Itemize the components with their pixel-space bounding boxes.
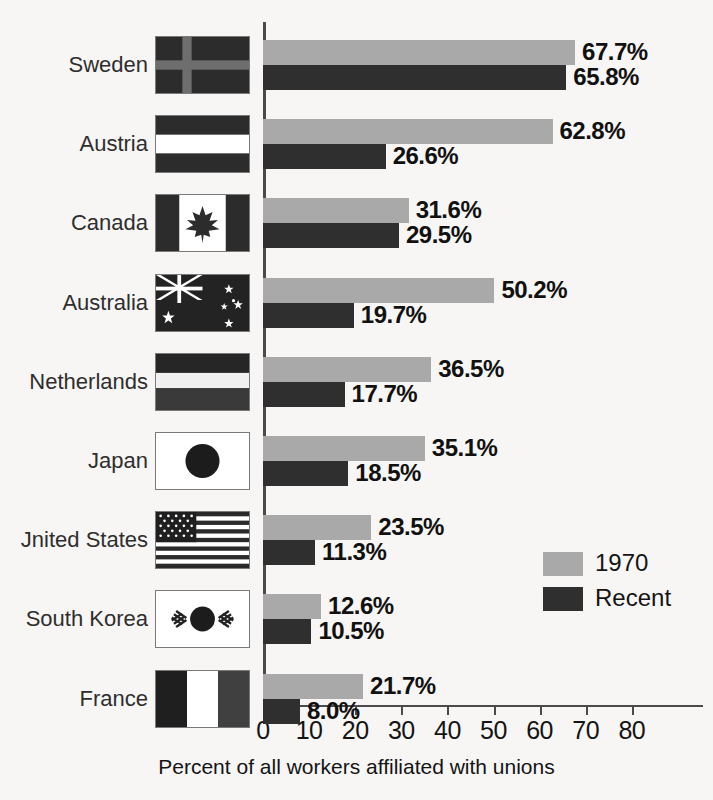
country-label-netherlands: Netherlands — [29, 369, 148, 395]
x-axis-title: Percent of all workers affiliated with u… — [0, 755, 713, 779]
bar-canada-1970 — [263, 198, 409, 223]
bar-france-1970 — [263, 674, 363, 699]
country-label-france: France — [80, 686, 148, 712]
bar-australia-recent — [263, 303, 354, 328]
bar-value-label: 12.6% — [328, 592, 394, 620]
country-label-japan: Japan — [88, 448, 148, 474]
country-label-sweden: Sweden — [68, 52, 148, 78]
bar-canada-recent — [263, 223, 399, 248]
country-label-wrap: Austria — [0, 119, 150, 169]
bar-austria-1970 — [263, 119, 553, 144]
country-label-australia: Australia — [62, 290, 148, 316]
chart-row: Canada 31.6%29.5% — [0, 198, 713, 248]
bar-value-label: 8.0% — [307, 697, 360, 725]
bar-japan-1970 — [263, 436, 425, 461]
legend-label-recent: Recent — [595, 584, 671, 612]
legend-swatch-recent — [543, 587, 583, 611]
bar-value-label: 62.8% — [560, 117, 626, 145]
bar-austria-recent — [263, 144, 386, 169]
chart-row: Sweden 67.7%65.8% — [0, 40, 713, 90]
country-label-wrap: South Korea — [0, 594, 150, 644]
bar-value-label: 21.7% — [370, 672, 436, 700]
country-label-wrap: France — [0, 674, 150, 724]
bar-sweden-1970 — [263, 40, 575, 65]
legend-label-1970: 1970 — [595, 549, 648, 577]
country-label-austria: Austria — [80, 131, 148, 157]
chart-row: Netherlands 36.5%17.7% — [0, 357, 713, 407]
country-label-wrap: Canada — [0, 198, 150, 248]
bar-value-label: 31.6% — [416, 196, 482, 224]
bar-value-label: 26.6% — [393, 142, 459, 170]
bar-netherlands-1970 — [263, 357, 431, 382]
bar-value-label: 17.7% — [352, 380, 418, 408]
legend-swatch-1970 — [543, 552, 583, 576]
bar-australia-1970 — [263, 278, 494, 303]
bar-value-label: 35.1% — [432, 434, 498, 462]
australia-flag — [155, 274, 250, 332]
canada-flag — [155, 194, 250, 252]
country-label-wrap: Netherlands — [0, 357, 150, 407]
bar-france-recent — [263, 699, 300, 724]
austria-flag — [155, 115, 250, 173]
bar-south-korea-1970 — [263, 594, 321, 619]
france-flag — [155, 670, 250, 728]
chart-row: Japan 35.1%18.5% — [0, 436, 713, 486]
south-korea-flag — [155, 590, 250, 648]
bar-united-states-recent — [263, 540, 315, 565]
bar-sweden-recent — [263, 65, 566, 90]
bar-united-states-1970 — [263, 515, 371, 540]
chart-row: Australia 50.2%19.7% — [0, 278, 713, 328]
country-label-united-states: Jnited States — [21, 527, 148, 553]
sweden-flag — [155, 36, 250, 94]
country-label-wrap: Jnited States — [0, 515, 150, 565]
netherlands-flag — [155, 353, 250, 411]
country-label-wrap: Sweden — [0, 40, 150, 90]
bar-value-label: 18.5% — [355, 459, 421, 487]
bar-value-label: 36.5% — [438, 355, 504, 383]
country-label-south-korea: South Korea — [26, 606, 148, 632]
chart-row: France 21.7%8.0% — [0, 674, 713, 724]
chart-row: Austria 62.8%26.6% — [0, 119, 713, 169]
japan-flag — [155, 432, 250, 490]
bar-value-label: 50.2% — [501, 276, 567, 304]
bar-value-label: 29.5% — [406, 221, 472, 249]
bar-value-label: 10.5% — [318, 617, 384, 645]
bar-south-korea-recent — [263, 619, 311, 644]
union-membership-bar-chart: 01020304050607080 Percent of all workers… — [0, 0, 713, 800]
country-label-wrap: Japan — [0, 436, 150, 486]
bar-value-label: 19.7% — [361, 301, 427, 329]
bar-value-label: 11.3% — [322, 538, 386, 566]
bar-value-label: 65.8% — [573, 63, 639, 91]
country-label-wrap: Australia — [0, 278, 150, 328]
bar-value-label: 23.5% — [378, 513, 444, 541]
bar-netherlands-recent — [263, 382, 345, 407]
bar-japan-recent — [263, 461, 348, 486]
country-label-canada: Canada — [71, 210, 148, 236]
bar-value-label: 67.7% — [582, 38, 648, 66]
united-states-flag — [155, 511, 250, 569]
